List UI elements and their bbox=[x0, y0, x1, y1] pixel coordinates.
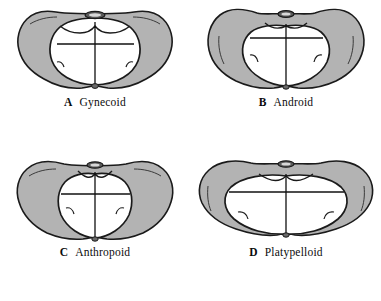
symphysis-pubis-platypelloid bbox=[283, 233, 289, 237]
pelvis-types-figure: AGynecoid bbox=[0, 0, 381, 301]
pelvis-panel-anthropoid: CAnthropoid bbox=[0, 150, 190, 300]
sacral-promontory-anthropoid bbox=[87, 162, 103, 168]
symphysis-pubis-anthropoid bbox=[92, 237, 98, 241]
sacral-promontory-gynecoid bbox=[85, 11, 105, 18]
pelvis-diagram-android bbox=[191, 0, 381, 108]
symphysis-pubis-android bbox=[283, 85, 289, 89]
panel-label: Anthropoid bbox=[75, 246, 130, 258]
pelvis-caption-android: BAndroid bbox=[191, 96, 381, 108]
panel-label: Gynecoid bbox=[80, 96, 126, 108]
sacral-promontory-android bbox=[278, 11, 294, 18]
panel-label: Platypelloid bbox=[265, 246, 323, 258]
panel-label: Android bbox=[274, 96, 314, 108]
pelvis-panel-gynecoid: AGynecoid bbox=[0, 0, 190, 150]
panel-letter: D bbox=[249, 246, 258, 258]
pelvis-caption-gynecoid: AGynecoid bbox=[0, 96, 190, 108]
pelvis-caption-anthropoid: CAnthropoid bbox=[0, 246, 190, 258]
symphysis-pubis-gynecoid bbox=[92, 84, 99, 89]
pelvis-caption-platypelloid: DPlatypelloid bbox=[191, 246, 381, 258]
pelvis-diagram-anthropoid bbox=[0, 150, 190, 258]
sacral-promontory-platypelloid bbox=[278, 161, 294, 167]
pelvis-diagram-gynecoid bbox=[0, 0, 190, 108]
pelvis-diagram-platypelloid bbox=[191, 150, 381, 258]
pelvis-panel-android: BAndroid bbox=[191, 0, 381, 150]
panel-letter: B bbox=[259, 96, 267, 108]
panel-letter: A bbox=[64, 96, 73, 108]
panel-letter: C bbox=[60, 246, 69, 258]
pelvis-panel-platypelloid: DPlatypelloid bbox=[191, 150, 381, 300]
